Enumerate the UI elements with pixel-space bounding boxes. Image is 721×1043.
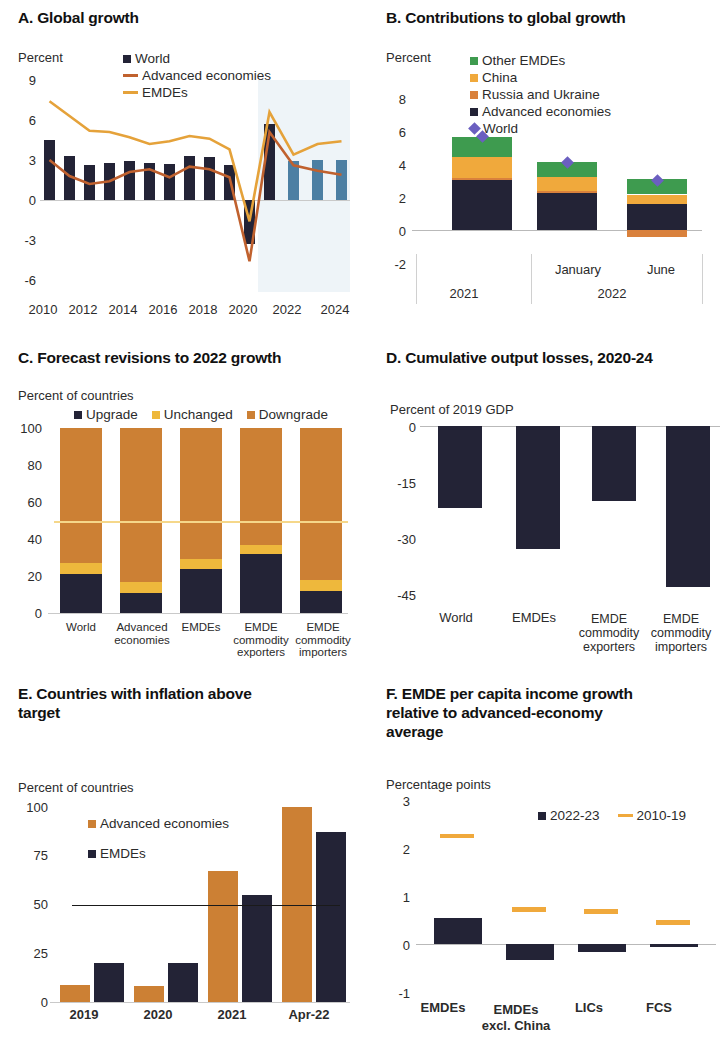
panel-b-ytick-2: 2	[384, 191, 406, 206]
panel-e-ytick-0: 0	[12, 995, 48, 1010]
panel-d-xtick-world: World	[426, 612, 486, 625]
panel-b-ytick--2: -2	[379, 257, 406, 272]
legend-label-downgrade: Downgrade	[259, 406, 328, 423]
marker-lics-2010-19	[584, 909, 618, 913]
panel-c-forecast-revisions: C. Forecast revisions to 2022 growth Per…	[18, 348, 358, 660]
bar-jun2022-advanced-economies	[627, 204, 687, 230]
panel-c-xtick-advanced-line2: economies	[114, 634, 170, 646]
bar-world	[438, 426, 482, 508]
group-separator-left	[416, 254, 417, 304]
panel-a-xtick-2012: 2012	[64, 304, 102, 317]
panel-f-ytick-3: 3	[382, 794, 410, 809]
panel-f-xtick-emdes-excl-china: EMDEsexcl. China	[478, 1002, 554, 1034]
panel-d-ytick--15: -15	[378, 476, 416, 491]
bar-exporters-upgrade	[240, 554, 282, 613]
legend-label-china: China	[482, 69, 517, 86]
panel-a-ytick-3: 3	[14, 153, 36, 168]
bar-2019-emdes	[94, 963, 124, 1002]
panel-e-xtick-2019: 2019	[54, 1009, 114, 1022]
panel-d-xtick-importers-line1: EMDE	[663, 612, 699, 626]
panel-b-label-2022: 2022	[582, 288, 642, 301]
bar-importers-upgrade	[300, 591, 342, 613]
bar-jan2022-russia-ukraine	[537, 191, 597, 193]
bar-fcs-2022-23	[650, 944, 698, 947]
panel-e-baseline	[50, 1002, 350, 1003]
panel-e-xtick-2021: 2021	[202, 1009, 262, 1022]
legend-swatch-downgrade	[247, 411, 255, 419]
panel-c-xtick-advanced: Advancedeconomies	[109, 621, 175, 646]
panel-c-ytick-20: 20	[10, 569, 42, 584]
panel-c-ytick-0: 0	[10, 606, 42, 621]
panel-d-axis-title: Percent of 2019 GDP	[390, 402, 514, 417]
bar-2020-advanced	[134, 986, 164, 1002]
line-advanced-economies	[50, 132, 342, 261]
bar-2021-advanced-economies	[452, 180, 512, 230]
bar-emdes	[516, 426, 560, 549]
marker-fcs-2010-19	[656, 920, 690, 924]
bar-world-unchanged	[60, 563, 102, 574]
legend-swatch-world	[123, 55, 131, 63]
bar-world-downgrade	[60, 428, 102, 563]
panel-a-ytick-6: 6	[14, 113, 36, 128]
bar-exporters-downgrade	[240, 428, 282, 545]
bar-2020-emdes	[168, 963, 198, 1002]
panel-a-xtick-2010: 2010	[24, 304, 62, 317]
panel-f-per-capita-income-growth: F. EMDE per capita income growth relativ…	[386, 684, 721, 1034]
panel-b-title: B. Contributions to global growth	[386, 8, 716, 27]
panel-c-xtick-exporters-line1: EMDE	[244, 621, 277, 633]
panel-a-xtick-2024: 2024	[316, 304, 354, 317]
legend-item-world: World	[123, 50, 271, 67]
panel-c-xtick-importers-line2: commodity	[295, 634, 351, 646]
group-separator-mid	[531, 254, 532, 304]
panel-d-ytick--45: -45	[378, 588, 416, 603]
panel-a-title: A. Global growth	[18, 8, 358, 27]
panel-b-ytick-4: 4	[384, 158, 406, 173]
panel-a-ytick--6: -6	[10, 273, 36, 288]
bar-emdes-excl-china-2022-23	[506, 944, 554, 960]
panel-d-xtick-emdes: EMDEs	[504, 612, 564, 625]
panel-f-axis-title: Percentage points	[386, 777, 491, 792]
panel-d-xtick-exporters-line1: EMDE	[591, 612, 627, 626]
group-separator-right	[702, 254, 703, 304]
legend-item-unchanged: Unchanged	[152, 406, 233, 423]
bar-2019-advanced	[60, 985, 90, 1003]
panel-c-ytick-100: 100	[10, 421, 42, 436]
panel-c-xtick-importers-line3: importers	[299, 646, 347, 658]
panel-f-xtick-emdes: EMDEs	[408, 1002, 478, 1015]
panel-a-ytick--3: -3	[10, 233, 36, 248]
bar-advanced-upgrade	[120, 593, 162, 613]
panel-c-baseline	[48, 613, 348, 614]
panel-c-legend: Upgrade Unchanged Downgrade	[74, 406, 328, 423]
panel-a-xtick-2020: 2020	[224, 304, 262, 317]
panel-d-xtick-importers: EMDEcommodityimporters	[646, 612, 716, 654]
bar-emdes-unchanged	[180, 559, 222, 568]
panel-a-xtick-2022: 2022	[268, 304, 306, 317]
panel-a-axis-title: Percent	[18, 50, 63, 65]
panel-d-xtick-exporters-line3: exporters	[583, 640, 635, 654]
bar-jun2022-china	[627, 195, 687, 205]
bar-exporters-unchanged	[240, 545, 282, 554]
panel-f-title-line2: relative to advanced-economy	[386, 704, 603, 721]
legend-swatch-upgrade	[74, 411, 82, 419]
legend-item-other-emdes: Other EMDEs	[470, 52, 611, 69]
panel-f-title-line3: average	[386, 723, 443, 740]
panel-b-label-2021: 2021	[434, 288, 494, 301]
panel-e-ytick-100: 100	[12, 800, 48, 815]
bar-emdes-2022-23	[434, 918, 482, 944]
bar-emdes-upgrade	[180, 569, 222, 613]
panel-c-title: C. Forecast revisions to 2022 growth	[18, 348, 358, 367]
panel-a-lines	[40, 80, 350, 300]
panel-b-label-june: June	[626, 264, 696, 277]
panel-c-ytick-60: 60	[10, 495, 42, 510]
panel-f-xtick-emdes-excl-china-line1: EMDEs	[494, 1002, 539, 1017]
bar-jan2022-advanced-economies	[537, 193, 597, 230]
legend-swatch-advanced-economies	[123, 74, 138, 77]
bar-jun2022-russia-ukraine	[627, 230, 687, 237]
panel-e-xtick-2020: 2020	[128, 1009, 188, 1022]
panel-f-title-line1: F. EMDE per capita income growth	[386, 685, 633, 702]
legend-item-china: China	[470, 69, 611, 86]
panel-c-xtick-importers: EMDEcommodityimporters	[290, 621, 356, 659]
panel-c-xtick-exporters: EMDEcommodityexporters	[228, 621, 294, 659]
marker-emdes-excl-china-2010-19	[512, 907, 546, 911]
legend-swatch-unchanged	[152, 411, 160, 419]
